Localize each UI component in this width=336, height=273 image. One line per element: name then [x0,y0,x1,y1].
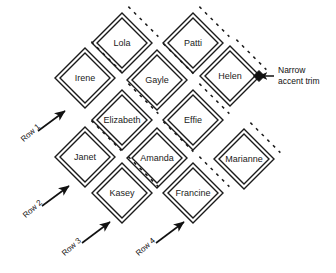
callout-line-2: accent trim [278,76,320,87]
callout-line-1: Narrow [278,65,320,76]
cells-layer [55,7,280,223]
callout-text: Narrowaccent trim [278,65,320,88]
row-arrow-4 [156,222,184,243]
row-arrow-2 [42,186,69,206]
cell-outline-outer [55,127,115,187]
row-arrow-3 [82,222,110,243]
cell-outline-outer [163,90,223,150]
diamond-grid-diagram [0,0,336,273]
cell-marianne[interactable] [214,123,280,189]
cell-outline-outer [92,90,152,150]
diagram-canvas: LolaPattiIreneGayleHelenElizabethEffieJa… [0,0,336,273]
